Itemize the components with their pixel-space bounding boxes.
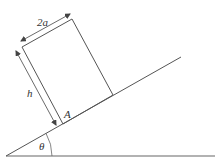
incline-block-diagram: 2a h A θ (0, 0, 215, 166)
height-label: h (27, 87, 33, 99)
angle-label: θ (39, 140, 45, 152)
width-label: 2a (37, 16, 49, 28)
corner-label: A (63, 108, 71, 120)
angle-arc (46, 133, 52, 156)
height-dimension-arrow (16, 51, 56, 125)
